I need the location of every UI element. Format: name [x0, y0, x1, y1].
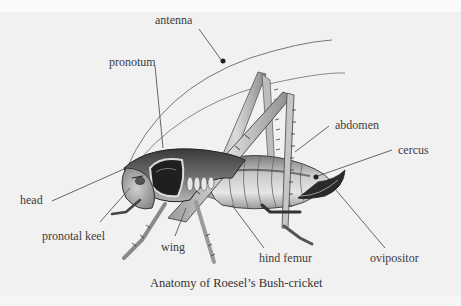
- anatomy-diagram: antenna pronotum abdomen cercus head pro…: [0, 0, 461, 306]
- eye: [136, 178, 145, 185]
- label-antenna: antenna: [155, 13, 192, 27]
- leader-abdomen: [295, 126, 329, 152]
- front-leg-near: [196, 202, 214, 262]
- leader-ovipositor: [336, 190, 385, 248]
- front-leg-far: [112, 200, 140, 214]
- leader-head: [52, 169, 124, 201]
- mid-leg: [124, 204, 165, 258]
- figure-caption: Anatomy of Roesel’s Bush-cricket: [150, 276, 323, 291]
- leader-antenna: [199, 29, 222, 61]
- label-cercus: cercus: [398, 143, 429, 157]
- label-ovipositor: ovipositor: [370, 251, 419, 265]
- label-pronotal-keel: pronotal keel: [42, 229, 105, 243]
- cercus-dot: [314, 175, 319, 180]
- antenna-marker: [221, 59, 226, 64]
- leader-cercus: [318, 150, 392, 176]
- leader-pronotal-keel: [100, 188, 130, 222]
- leader-pronotum: [155, 66, 163, 148]
- hind-tarsus: [284, 226, 312, 244]
- label-wing: wing: [161, 240, 185, 254]
- label-pronotum: pronotum: [109, 55, 156, 69]
- label-hind-femur: hind femur: [259, 251, 312, 265]
- leader-hind-femur: [232, 205, 264, 248]
- label-abdomen: abdomen: [335, 118, 379, 132]
- label-head: head: [20, 193, 43, 207]
- pronotal-lobe: [150, 159, 183, 196]
